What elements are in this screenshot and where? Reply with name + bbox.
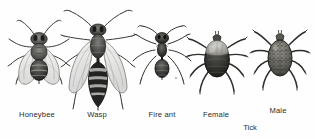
specimen-tick-female	[186, 27, 248, 95]
label-tick-group: Tick	[243, 123, 257, 132]
label-wasp: Wasp	[87, 110, 107, 119]
label-fire-ant: Fire ant	[149, 110, 176, 119]
label-tick-female: Female	[203, 110, 229, 119]
label-tick-male: Male	[269, 106, 286, 115]
figure-plate: Honeybee	[0, 0, 315, 139]
specimen-tick-male	[249, 25, 311, 91]
specimen-wasp	[60, 8, 136, 112]
label-honeybee: Honeybee	[19, 110, 55, 119]
specimen-fire-ant	[133, 22, 191, 94]
